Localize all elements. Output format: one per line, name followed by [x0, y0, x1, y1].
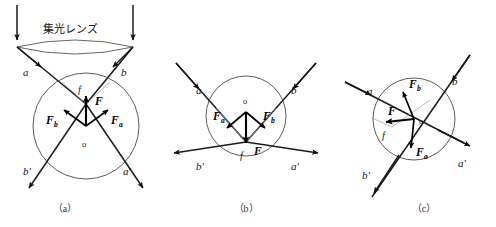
panel-b-label-Fa: F: [212, 110, 221, 122]
panel-b-label-F: F: [253, 145, 262, 157]
panel-c-label-Fa: F: [415, 146, 424, 158]
panel-c-label-ray-b: b: [452, 75, 458, 87]
optical-trapping-figure: 集光レンズ a b b' a' f o F F b F a （a）: [0, 0, 496, 227]
panel-a: 集光レンズ a b b' a' f o F F b F a （a）: [17, 5, 143, 214]
panel-a-ray-b-arrow: [113, 47, 133, 67]
panel-a-label-F: F: [94, 95, 103, 107]
panel-b-vector-Fa: [227, 112, 246, 128]
panel-a-label-Fa: F: [110, 114, 119, 126]
panel-c-label-Fb: F: [408, 78, 417, 90]
panel-a-label-center: o: [82, 139, 86, 149]
panel-b-label-Fa-subscript: a: [221, 116, 225, 125]
panel-a-label-Fb: F: [45, 114, 54, 126]
panel-c-vector-Fa: [411, 119, 414, 148]
panel-a-lens-top-surface: [17, 40, 133, 47]
panel-b-label-center: o: [243, 96, 247, 106]
panel-a-vector-Fb: [64, 110, 86, 126]
panel-c-ray-a-prime: [438, 130, 470, 146]
panel-c-label-ray-b-prime: b': [362, 169, 371, 181]
panel-a-caption: （a）: [53, 203, 77, 214]
panel-a-label-ray-a-prime: a': [123, 165, 132, 177]
panel-b-label-focus: f: [240, 150, 245, 161]
panel-b-label-Fb-subscript: b: [271, 116, 275, 125]
panel-c-label-ray-a: a: [367, 85, 373, 97]
panel-b-ray-b-prime: [174, 142, 246, 153]
figure-canvas: 集光レンズ a b b' a' f o F F b F a （a）: [0, 0, 496, 227]
panel-a-cone-left: [62, 82, 86, 104]
panel-c-caption: （c）: [412, 203, 436, 214]
panel-a-lens-label: 集光レンズ: [43, 22, 98, 36]
panel-a-label-ray-b-prime: b': [23, 165, 32, 177]
panel-c-label-center: o: [419, 116, 423, 126]
panel-b: a b b' a' o f F F a F b （b）: [174, 63, 318, 214]
panel-c-label-F: F: [387, 105, 396, 117]
panel-b-label-Fa-group: F a: [212, 110, 225, 125]
panel-a-lens-bottom-surface: [17, 47, 133, 54]
panel-b-label-ray-b: b: [291, 84, 297, 96]
panel-b-label-ray-b-prime: b': [196, 160, 205, 172]
panel-a-label-ray-a: a: [23, 66, 29, 78]
panel-c-label-ray-a-prime: a': [458, 157, 467, 169]
panel-b-caption: （b）: [234, 203, 259, 214]
panel-c-ray-b-prime: [374, 155, 399, 193]
panel-c: a b b' a' o f F F b F a （c）: [345, 55, 470, 214]
panel-a-label-Fa-group: F a: [110, 114, 123, 129]
panel-c-label-Fa-subscript: a: [424, 152, 428, 161]
panel-c-label-Fb-group: F b: [408, 78, 421, 93]
panel-a-ray-b-prime: [29, 104, 86, 188]
panel-b-label-ray-a-prime: a': [291, 160, 300, 172]
panel-a-vector-Fa: [86, 110, 108, 126]
panel-c-label-Fb-subscript: b: [417, 84, 421, 93]
panel-a-label-ray-b: b: [121, 66, 127, 78]
panel-b-label-ray-a: a: [196, 84, 202, 96]
panel-a-label-Fb-subscript: b: [54, 120, 58, 129]
panel-a-label-Fa-subscript: a: [119, 120, 123, 129]
panel-b-label-Fb: F: [262, 110, 271, 122]
panel-c-label-Fa-group: F a: [415, 146, 428, 161]
panel-c-vector-F-resultant: [386, 119, 414, 122]
panel-a-label-Fb-group: F b: [45, 114, 58, 129]
panel-c-label-focus: f: [382, 130, 387, 141]
panel-a-label-focus: f: [78, 84, 83, 95]
